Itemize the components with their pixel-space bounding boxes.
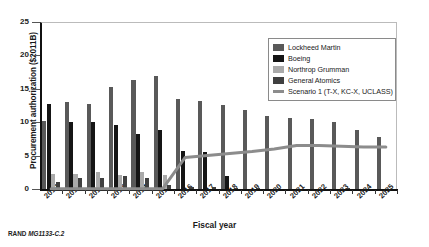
x-axis-tick [352,190,353,194]
legend-line-swatch-icon [273,90,284,93]
y-axis-tick [32,189,40,190]
x-axis-title: Fiscal year [0,220,429,230]
legend-color-swatch-icon [273,44,284,51]
legend-color-swatch-icon [273,77,284,84]
scenario-line [51,146,386,189]
figure-container: Procurement authorization ($2011B) 05101… [0,0,429,247]
y-axis-title: Procurement authorization ($2011B) [29,11,38,191]
source-note-id: MG1133-C.2 [28,230,64,237]
legend-color-swatch-icon [273,66,284,73]
legend-item: General Atomics [273,75,391,86]
y-axis-tick [32,122,40,123]
source-note-prefix: RAND [8,230,26,237]
x-axis-tick [85,190,86,194]
chart-legend: Lockheed MartinBoeingNorthrop GrummanGen… [268,38,396,101]
y-axis-tick-label: 10 [3,117,29,126]
legend-color-swatch-icon [273,55,284,62]
y-axis-tick [32,55,40,56]
x-axis-tick [219,190,220,194]
x-axis-tick [308,190,309,194]
legend-item-label: Boeing [288,54,310,63]
legend-item-label: Lockheed Martin [288,43,340,52]
x-axis-tick [152,190,153,194]
x-axis-tick [285,190,286,194]
y-axis-tick [32,89,40,90]
y-axis-tick-label: 25 [3,17,29,26]
source-note: RAND MG1133-C.2 [8,230,64,237]
legend-item: Scenario 1 (T-X, KC-X, UCLASS) [273,86,391,97]
legend-item-label: Scenario 1 (T-X, KC-X, UCLASS) [288,87,393,96]
y-axis-tick [32,22,40,23]
y-axis-tick-label: 20 [3,50,29,59]
x-axis-tick [397,190,398,194]
y-axis-tick [32,156,40,157]
y-axis-tick-label: 0 [3,184,29,193]
x-axis-tick [375,190,376,194]
legend-item: Boeing [273,53,391,64]
y-axis-tick-label: 5 [3,151,29,160]
y-axis-tick-label: 15 [3,84,29,93]
legend-item: Northrop Grumman [273,64,391,75]
legend-item-label: General Atomics [288,76,340,85]
legend-item-label: Northrop Grumman [288,65,349,74]
legend-item: Lockheed Martin [273,42,391,53]
